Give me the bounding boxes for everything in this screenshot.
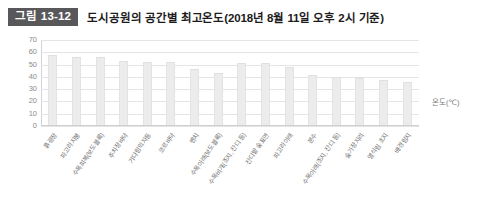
bar-slot [136, 40, 160, 125]
bar-slot [348, 40, 372, 125]
bar [332, 77, 341, 125]
y-axis-tick-label: 0 [33, 122, 37, 130]
bar [166, 62, 175, 125]
plot-area: 010203040506070 [41, 40, 419, 126]
bar [355, 78, 364, 125]
bar-slot [41, 40, 65, 125]
x-axis-tick-label: 배경림지 [394, 132, 412, 155]
y-axis-tick-label: 10 [29, 110, 37, 118]
bar-slot [395, 40, 419, 125]
y-axis-tick-label: 40 [29, 73, 37, 81]
bar [48, 55, 57, 125]
bar [214, 73, 223, 125]
bar-slot [372, 40, 396, 125]
bar-slot [230, 40, 254, 125]
bar-slot [159, 40, 183, 125]
x-axis-label-slot: 수목비개(조지, 잔디 등) [230, 130, 254, 216]
x-axis-label-slot: 코르바닥 [159, 130, 183, 216]
bar-slot [88, 40, 112, 125]
x-axis-labels: 흙광장파고라지붕수목피복(보도블록)주차장바닥기다림의자등코르바닥벤치수목아래(… [41, 130, 419, 216]
bar-slot [206, 40, 230, 125]
figure-header: 그림 13-12 도시공원의 공간별 최고온도(2018년 8월 11일 오후 … [0, 4, 491, 30]
x-axis-label-slot: 파고라아래 [277, 130, 301, 216]
bar [403, 82, 412, 126]
bar [379, 80, 388, 125]
x-axis-label-slot: 잔디밭 숲표면 [254, 130, 278, 216]
bar-slot [65, 40, 89, 125]
x-axis-label-slot: 주차장바닥 [112, 130, 136, 216]
x-axis-label-slot: 수목피복(보도블록) [88, 130, 112, 216]
bar [237, 63, 246, 125]
bar-series [41, 40, 419, 125]
y-axis-tick-label: 70 [29, 36, 37, 44]
bar-slot [254, 40, 278, 125]
bar [119, 61, 128, 125]
x-axis-label-slot: 숲가장자리 [348, 130, 372, 216]
bar-slot [301, 40, 325, 125]
x-axis-tick-label: 흙광장 [43, 132, 58, 150]
y-axis-tick-label: 60 [29, 49, 37, 57]
bar [190, 69, 199, 125]
bar [285, 67, 294, 125]
bar [308, 75, 317, 125]
y-axis-tick-label: 30 [29, 85, 37, 93]
x-axis-tick-label: 분수 [306, 132, 318, 145]
figure-title: 도시공원의 공간별 최고온도(2018년 8월 11일 오후 2시 기준) [87, 9, 384, 25]
bar-slot [325, 40, 349, 125]
y-axis-unit-label: 온도(℃) [432, 96, 459, 107]
bar [72, 57, 81, 125]
x-axis-label-slot: 수목아래(조지, 잔디 등) [325, 130, 349, 216]
bar [143, 62, 152, 125]
x-axis-tick-label: 코르바닥 [158, 132, 176, 155]
x-axis-label-slot: 흙광장 [41, 130, 65, 216]
bar [96, 57, 105, 125]
bar-slot [112, 40, 136, 125]
y-axis-tick-label: 50 [29, 61, 37, 69]
x-axis-label-slot: 열식림 초지 [372, 130, 396, 216]
gridline [41, 126, 419, 127]
x-axis-tick-label: 벤치 [188, 132, 200, 145]
bar-slot [183, 40, 207, 125]
figure-number-badge: 그림 13-12 [8, 8, 78, 27]
x-axis-label-slot: 기다림의자등 [136, 130, 160, 216]
y-axis-tick-label: 20 [29, 98, 37, 106]
x-axis-label-slot: 배경림지 [395, 130, 419, 216]
bar-chart: 010203040506070 흙광장파고라지붕수목피복(보도블록)주차장바닥기… [0, 34, 491, 216]
bar-slot [277, 40, 301, 125]
bar [261, 63, 270, 125]
